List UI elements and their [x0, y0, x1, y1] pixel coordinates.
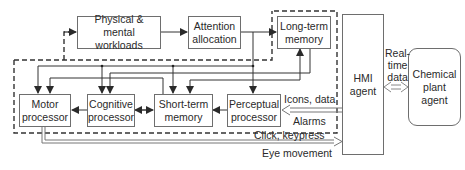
- hmi-agent-box: HMI agent: [342, 14, 384, 155]
- chemical-plant-agent-box: Chemical plant agent: [408, 48, 461, 126]
- attention-allocation-box: Attention allocation: [188, 16, 241, 49]
- eye-movement-label: Eye movement: [262, 147, 332, 159]
- icons-data-label: Icons, data: [284, 93, 335, 105]
- cognitive-processor-box: Cognitive processor: [87, 94, 135, 127]
- hmi-to-perceptual-double-arrow: [282, 105, 342, 115]
- motor-processor-box: Motor processor: [19, 94, 71, 127]
- hmi-plant-bidirectional-arrow: [384, 82, 408, 92]
- short-term-memory-box: Short-term memory: [154, 94, 213, 127]
- ltm-feedback-lines: [50, 48, 310, 94]
- long-term-memory-box: Long-term memory: [277, 16, 331, 49]
- perceptual-processor-box: Perceptual processor: [227, 94, 281, 127]
- click-keypress-label: Click, keypress: [254, 129, 325, 141]
- physical-mental-workloads-box: Physical & mental workloads: [77, 16, 161, 49]
- alarms-label: Alarms: [293, 115, 326, 127]
- realtime-data-label: Real- time data: [385, 47, 410, 83]
